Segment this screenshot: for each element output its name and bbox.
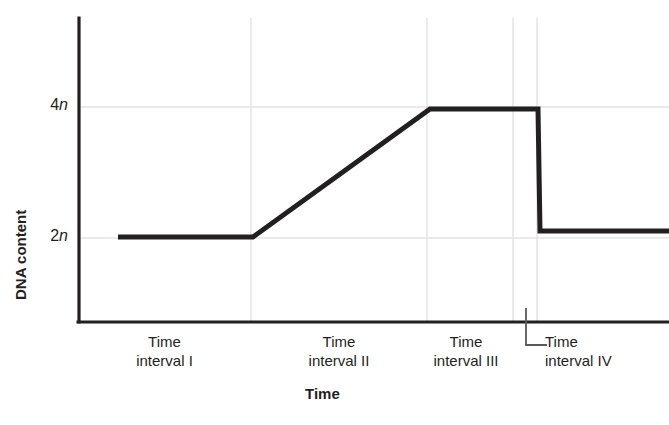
x-region-label-interval-iv: Timeinterval IV <box>545 332 665 370</box>
x-region-label-interval-ii: Timeinterval II <box>251 332 427 370</box>
x-region-label-interval-iii: Timeinterval III <box>411 332 521 370</box>
x-axis-title: Time <box>305 385 340 402</box>
interval-i-line2: interval I <box>136 352 193 369</box>
interval-iii-line2: interval III <box>433 352 498 369</box>
x-region-label-interval-i: Timeinterval I <box>78 332 251 370</box>
interval-iv-line2: interval IV <box>545 352 612 369</box>
dna-content-curve <box>118 109 669 237</box>
interval-iv-line1: Time <box>545 333 578 350</box>
vertical-gridlines <box>251 18 537 322</box>
y-axis-title: DNA content <box>12 210 29 300</box>
interval-iii-line1: Time <box>450 333 483 350</box>
y-tick-4n-number: 4 <box>50 96 59 113</box>
interval-ii-line2: interval II <box>309 352 370 369</box>
y-tick-2n-unit: n <box>59 227 68 244</box>
horizontal-gridlines <box>78 107 669 238</box>
interval-i-line1: Time <box>148 333 181 350</box>
y-tick-label-2n: 2n <box>24 227 68 245</box>
interval-ii-line1: Time <box>323 333 356 350</box>
y-tick-2n-number: 2 <box>50 227 59 244</box>
y-tick-4n-unit: n <box>59 96 68 113</box>
dna-content-chart: 4n 2n Timeinterval I Timeinterval II Tim… <box>0 0 669 425</box>
y-tick-label-4n: 4n <box>24 96 68 114</box>
